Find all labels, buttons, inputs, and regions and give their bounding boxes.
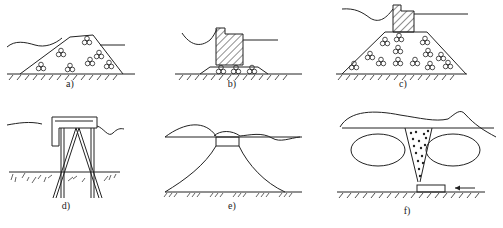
panel-label-b: b) xyxy=(228,78,236,89)
panel-e-artificial-island xyxy=(164,125,302,197)
panel-b-caisson xyxy=(175,28,302,80)
left-ellipse xyxy=(351,134,405,166)
jacket-legs xyxy=(53,128,102,198)
right-ellipse xyxy=(426,134,480,166)
island-caisson xyxy=(216,137,239,146)
fill-funnel xyxy=(405,128,432,182)
caisson-block xyxy=(216,28,243,65)
wave-line-right xyxy=(214,132,300,141)
fill-slope-right xyxy=(239,146,285,192)
wave-line xyxy=(342,9,393,20)
panel-f-sand-fill xyxy=(337,111,496,198)
terrain-line xyxy=(340,111,496,137)
arrow-left-icon xyxy=(455,186,475,191)
panel-label-e: e) xyxy=(228,200,236,211)
wave-line xyxy=(7,122,42,125)
seabed-hatching xyxy=(164,193,292,197)
panel-label-d: d) xyxy=(62,200,70,211)
seabed-hatching xyxy=(339,193,479,198)
panel-label-a: a) xyxy=(66,78,74,89)
wave-line-left xyxy=(165,125,216,137)
seabed-hatching xyxy=(9,75,117,80)
seabed-hatching xyxy=(338,75,454,80)
fill-slope-left xyxy=(165,146,216,192)
diagram-canvas xyxy=(0,0,503,228)
rock-fill xyxy=(36,36,113,72)
wave-line xyxy=(7,38,62,47)
panel-label-c: c) xyxy=(399,78,407,89)
caisson-block xyxy=(393,5,414,32)
panel-c-composite xyxy=(336,5,468,80)
wave-line-right xyxy=(97,126,124,134)
panel-d-jacket-platform xyxy=(7,117,124,198)
panel-a-rubble-mound xyxy=(7,35,135,80)
wave-line xyxy=(182,29,217,44)
conveyor-pipe xyxy=(417,185,445,192)
panel-label-f: f) xyxy=(404,205,411,216)
